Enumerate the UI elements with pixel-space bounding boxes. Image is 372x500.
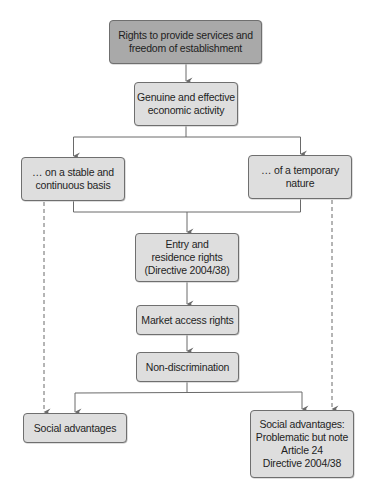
node-market-access-rights: Market access rights [136, 305, 239, 335]
node-temporary-nature: … of a temporary nature [248, 155, 352, 199]
edge-nondiscrimination-split [75, 392, 302, 393]
node-label: Social advantages: Problematic but note … [256, 418, 348, 470]
node-non-discrimination: Non-discrimination [136, 352, 239, 382]
node-rights-services-establishment: Rights to provide services and freedom o… [109, 20, 262, 64]
node-label: … of a temporary nature [261, 164, 339, 190]
node-social-advantages-right: Social advantages: Problematic but note … [250, 410, 354, 478]
node-label: Rights to provide services and freedom o… [118, 29, 253, 55]
node-label: Social advantages [34, 422, 116, 435]
node-social-advantages-left: Social advantages [23, 413, 127, 443]
node-label: Genuine and effective economic activity [137, 91, 235, 117]
node-entry-residence-rights: Entry and residence rights (Directive 20… [135, 233, 239, 282]
node-label: Market access rights [141, 314, 233, 327]
node-label: … on a stable and continuous basis [32, 166, 114, 192]
node-label: Non-discrimination [146, 361, 229, 374]
flowchart: Rights to provide services and freedom o… [0, 0, 372, 500]
node-stable-continuous-basis: … on a stable and continuous basis [21, 157, 125, 201]
node-label: Entry and residence rights (Directive 20… [145, 238, 230, 277]
node-genuine-economic-activity: Genuine and effective economic activity [134, 82, 238, 126]
